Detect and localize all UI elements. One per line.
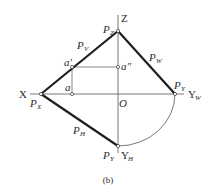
figure-caption: (b)	[103, 175, 114, 185]
point-a-double-prime	[116, 65, 119, 68]
axis-label-yw: Y W	[188, 88, 202, 102]
svg-text:P: P	[72, 124, 80, 136]
label-py-h: P Y	[102, 149, 115, 163]
svg-text:P: P	[173, 79, 181, 91]
svg-text:V: V	[84, 45, 89, 53]
axis-label-z: Z	[121, 12, 128, 24]
axis-label-yh: Y H	[121, 149, 134, 163]
svg-text:W: W	[195, 94, 202, 102]
trace-ph	[41, 94, 118, 146]
label-a-double-prime: a″	[121, 60, 132, 72]
label-a: a	[65, 81, 71, 93]
svg-text:Y: Y	[110, 155, 115, 163]
label-py-w: P Y	[173, 79, 186, 93]
svg-text:H: H	[127, 155, 134, 163]
point-py-h	[116, 144, 119, 147]
label-pz: P Z	[102, 23, 114, 37]
point-a	[70, 92, 73, 95]
origin-label: O	[119, 97, 127, 109]
point-pz	[116, 29, 119, 32]
svg-text:X: X	[36, 103, 42, 111]
label-a-prime: a′	[64, 56, 73, 68]
svg-text:H: H	[79, 130, 86, 138]
svg-text:P: P	[102, 23, 110, 35]
label-px: P X	[29, 97, 42, 111]
svg-text:P: P	[148, 51, 156, 63]
point-px	[39, 92, 42, 95]
svg-text:Y: Y	[181, 85, 186, 93]
projection-diagram: Z X O Y W Y H P Z P X P Y P Y a′ a″ a	[0, 0, 216, 192]
label-trace-pv: P V	[76, 39, 89, 53]
label-trace-ph: P H	[72, 124, 86, 138]
svg-text:P: P	[29, 97, 37, 109]
axis-label-x: X	[19, 88, 27, 100]
svg-text:Z: Z	[110, 29, 114, 37]
svg-text:P: P	[76, 39, 84, 51]
svg-text:P: P	[102, 149, 110, 161]
point-py-w	[173, 92, 176, 95]
label-trace-pw: P W	[148, 51, 163, 65]
svg-text:W: W	[156, 57, 163, 65]
